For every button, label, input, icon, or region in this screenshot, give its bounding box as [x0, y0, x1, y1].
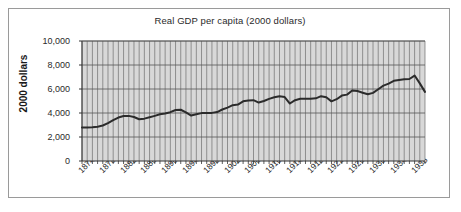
chart-figure: Real GDP per capita (2000 dollars) 2000 …: [0, 0, 461, 212]
plot-canvas: [0, 0, 461, 212]
